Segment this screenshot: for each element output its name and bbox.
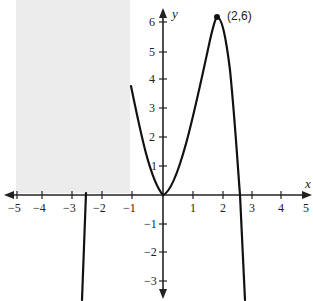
x-tick-label: 5 [303, 201, 309, 215]
y-tick-label: 5 [149, 45, 155, 59]
y-axis: 6 5 4 3 2 1 −1 −2 −3 y [144, 6, 178, 299]
y-tick-label: −1 [144, 217, 157, 231]
x-tick-label: 2 [220, 201, 226, 215]
y-tick-label: 3 [149, 101, 155, 115]
y-tick-label: 4 [149, 72, 155, 86]
x-tick-label: −4 [33, 201, 46, 215]
x-tick-label: −1 [123, 201, 136, 215]
x-tick-label: 1 [190, 201, 196, 215]
y-tick-label: −3 [144, 274, 157, 288]
function-left-branch [82, 193, 86, 300]
x-tick-label: −3 [63, 201, 76, 215]
x-axis-label: x [304, 176, 311, 191]
function-graph: −5 −4 −3 −2 −1 1 2 3 4 5 x 6 5 4 3 2 1 [0, 0, 313, 301]
x-tick-label: −2 [93, 201, 106, 215]
y-axis-label: y [170, 6, 178, 21]
x-tick-label: 3 [249, 201, 255, 215]
x-axis-left-arrow-icon [4, 191, 14, 199]
x-axis-right-arrow-icon [302, 191, 312, 199]
y-tick-label: −2 [144, 245, 157, 259]
x-tick-label: −5 [8, 201, 21, 215]
y-axis-up-arrow-icon [159, 8, 167, 18]
y-axis-down-arrow-icon [159, 289, 167, 299]
y-tick-label: 6 [149, 15, 155, 29]
shaded-region [16, 0, 130, 193]
x-tick-label: 4 [278, 201, 284, 215]
peak-point-marker [214, 14, 220, 20]
y-tick-label: 2 [149, 130, 155, 144]
peak-point-label: (2,6) [227, 9, 252, 23]
